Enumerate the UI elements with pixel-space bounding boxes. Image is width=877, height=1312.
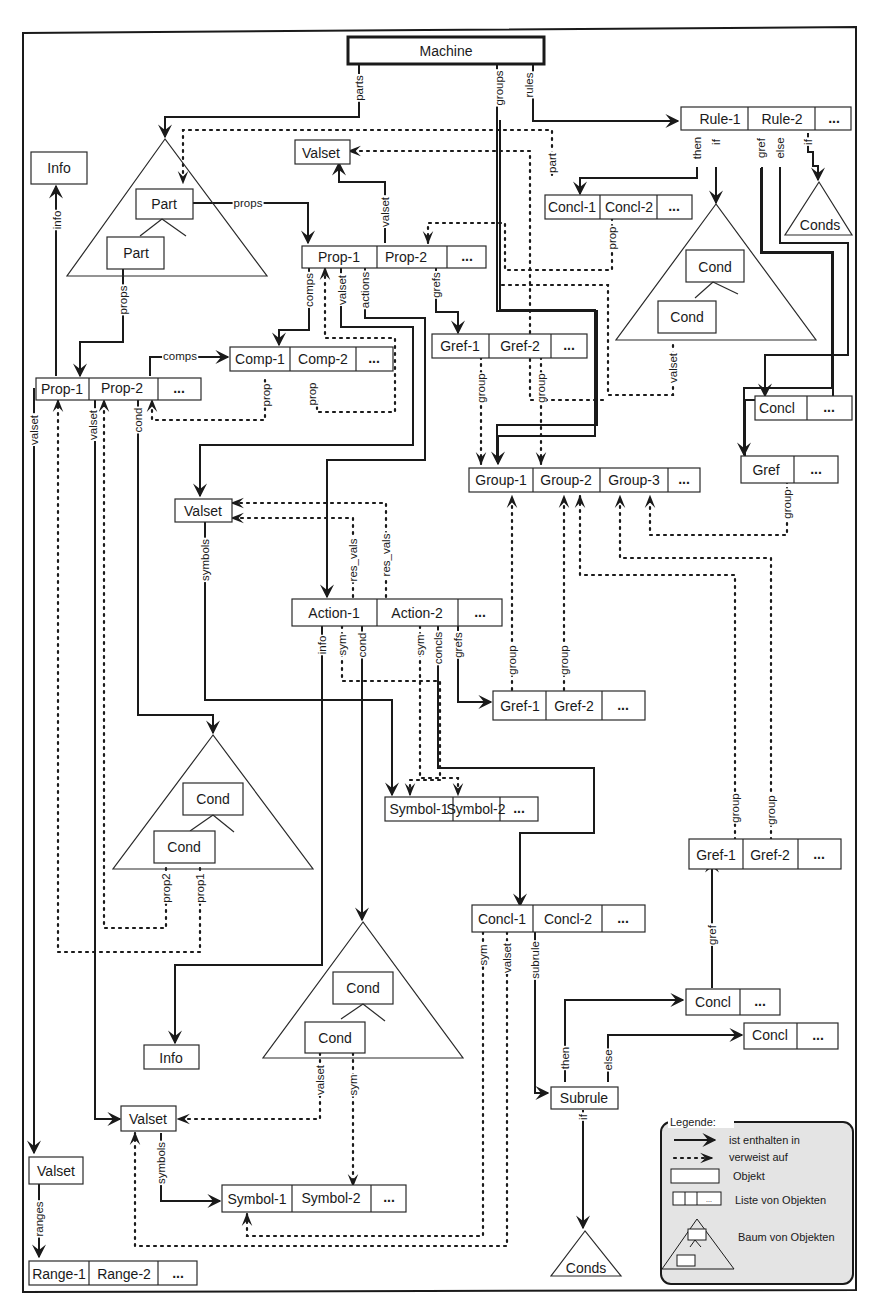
- range-list[interactable]: Range-1 Range-2 ...: [29, 1261, 197, 1285]
- valset-node-top[interactable]: Valset: [295, 140, 350, 164]
- edge-label-rules: rules: [523, 72, 535, 97]
- edge-label-concls: concls: [432, 631, 444, 664]
- more-label: ...: [678, 471, 690, 487]
- info-node-low[interactable]: Info: [144, 1045, 199, 1069]
- concl-node-else[interactable]: Concl ...: [744, 1023, 838, 1049]
- prop-1-label: Prop-1: [41, 381, 83, 397]
- legend: Legende: ist enthalten in verweist auf O…: [661, 1116, 853, 1284]
- symbol-list-low[interactable]: Symbol-1 Symbol-2 ...: [222, 1185, 406, 1212]
- concl-list-low[interactable]: Concl-1 Concl-2 ...: [472, 905, 645, 932]
- symbol-2-label: Symbol-2: [446, 801, 505, 817]
- concl-node-right[interactable]: Concl ...: [755, 396, 852, 420]
- edge-label-group: group: [535, 373, 547, 402]
- edge-label-parts: parts: [353, 75, 365, 101]
- info-node-top[interactable]: Info: [31, 152, 87, 184]
- subrule-label: Subrule: [560, 1090, 608, 1106]
- legend-object: Objekt: [733, 1170, 765, 1182]
- valset-node-low[interactable]: Valset: [121, 1106, 176, 1131]
- edge-label-sym: sym: [414, 634, 426, 655]
- cond-tree-low[interactable]: Cond Cond: [263, 922, 463, 1058]
- cond-label: Cond: [670, 309, 703, 325]
- more-label: ...: [617, 910, 629, 926]
- edge-label-part: part: [546, 152, 558, 173]
- edge-label-group: group: [475, 373, 487, 402]
- edge-label-groups: groups: [493, 70, 505, 105]
- concl-label: Concl: [759, 400, 795, 416]
- gref-1-label: Gref-1: [500, 698, 540, 714]
- more-label: ...: [812, 1027, 824, 1043]
- edge-label-gref: gref: [706, 924, 718, 945]
- cond-label: Cond: [196, 791, 229, 807]
- edge-label-if: if: [802, 138, 814, 145]
- edge-label-then: then: [691, 137, 703, 159]
- conds-label: Conds: [800, 217, 840, 233]
- conds-tree-low[interactable]: Conds: [551, 1231, 621, 1276]
- symbol-list-mid[interactable]: Symbol-1 Symbol-2 ...: [385, 797, 538, 821]
- cond-label: Cond: [698, 259, 731, 275]
- gref-2-label: Gref-2: [750, 847, 790, 863]
- machine-node[interactable]: Machine: [348, 37, 544, 64]
- edge-label-valset: valset: [336, 274, 348, 305]
- conds-tree-top[interactable]: Conds: [785, 182, 852, 235]
- gref-list-mid[interactable]: Gref-1 Gref-2 ...: [493, 691, 645, 720]
- edge-label-group: group: [558, 645, 570, 674]
- edge-label-then: then: [559, 1047, 571, 1069]
- cond-label: Cond: [167, 839, 200, 855]
- comp-list[interactable]: Comp-1 Comp-2 ...: [230, 347, 393, 371]
- action-2-label: Action-2: [391, 605, 443, 621]
- more-label: ...: [668, 198, 680, 214]
- more-label: ...: [383, 1189, 395, 1205]
- more-label: ...: [368, 350, 380, 366]
- cond-tree-rule[interactable]: Cond Cond: [616, 204, 816, 340]
- edge-label-ranges: ranges: [33, 1201, 45, 1236]
- prop-1-label: Prop-1: [318, 249, 360, 265]
- edge-label-prop1: prop1: [194, 873, 206, 902]
- legend-tree: Baum von Objekten: [738, 1231, 835, 1243]
- edge-label-valset: valset: [28, 414, 40, 445]
- edge-label-actions: actions: [359, 272, 371, 309]
- edge-label-prop: prop: [306, 382, 318, 405]
- part-label: Part: [123, 245, 149, 261]
- legend-title: Legende:: [670, 1116, 716, 1128]
- legend-list-ellipsis: ...: [706, 1196, 712, 1203]
- edge-label-subrule: subrule: [529, 941, 541, 979]
- edge-label-prop: prop: [606, 226, 618, 249]
- subrule-node[interactable]: Subrule: [551, 1087, 618, 1109]
- valset-label: Valset: [184, 503, 222, 519]
- comp-2-label: Comp-2: [298, 351, 348, 367]
- gref-node-right[interactable]: Gref ...: [741, 456, 838, 483]
- edge-label-valset: valset: [87, 409, 99, 440]
- rule-list[interactable]: Rule-1 Rule-2 ...: [681, 107, 851, 130]
- edge-label-grefs: grefs: [452, 632, 464, 658]
- action-1-label: Action-1: [308, 605, 360, 621]
- edge-label-valset: valset: [667, 352, 679, 383]
- reference-edges: [58, 130, 787, 1246]
- concl-list-top[interactable]: Concl-1 Concl-2 ...: [545, 195, 692, 219]
- cond-tree-mid[interactable]: Cond Cond: [113, 735, 313, 869]
- comp-1-label: Comp-1: [235, 351, 285, 367]
- gref-list-top[interactable]: Gref-1 Gref-2 ...: [432, 334, 587, 358]
- concl-1-label: Concl-1: [548, 199, 596, 215]
- more-label: ...: [173, 380, 185, 396]
- symbol-1-label: Symbol-1: [389, 801, 448, 817]
- valset-node-mid[interactable]: Valset: [175, 499, 232, 522]
- edge-label-prop: prop: [260, 383, 272, 406]
- edge-label-comps: comps: [163, 350, 197, 362]
- legend-list: Liste von Objekten: [735, 1194, 826, 1206]
- concl-1-label: Concl-1: [478, 911, 526, 927]
- edge-label-group: group: [765, 795, 777, 824]
- gref-list-low[interactable]: Gref-1 Gref-2 ...: [689, 839, 841, 869]
- group-list[interactable]: Group-1 Group-2 Group-3 ...: [469, 468, 700, 492]
- group-2-label: Group-2: [540, 472, 592, 488]
- action-list[interactable]: Action-1 Action-2 ...: [292, 599, 502, 626]
- prop-list-left[interactable]: Prop-1 Prop-2 ...: [36, 378, 201, 400]
- valset-node-left[interactable]: Valset: [29, 1157, 83, 1184]
- edge-label-group: group: [506, 645, 518, 674]
- concl-label: Concl: [752, 1027, 788, 1043]
- prop-list-top[interactable]: Prop-1 Prop-2 ...: [302, 246, 486, 268]
- object-model-diagram: Machine Info Part Part Valset Prop-1 Pro…: [0, 0, 877, 1312]
- concl-node-then[interactable]: Concl ...: [686, 989, 780, 1015]
- more-label: ...: [813, 846, 825, 862]
- gref-2-label: Gref-2: [500, 338, 540, 354]
- prop-2-label: Prop-2: [101, 380, 143, 396]
